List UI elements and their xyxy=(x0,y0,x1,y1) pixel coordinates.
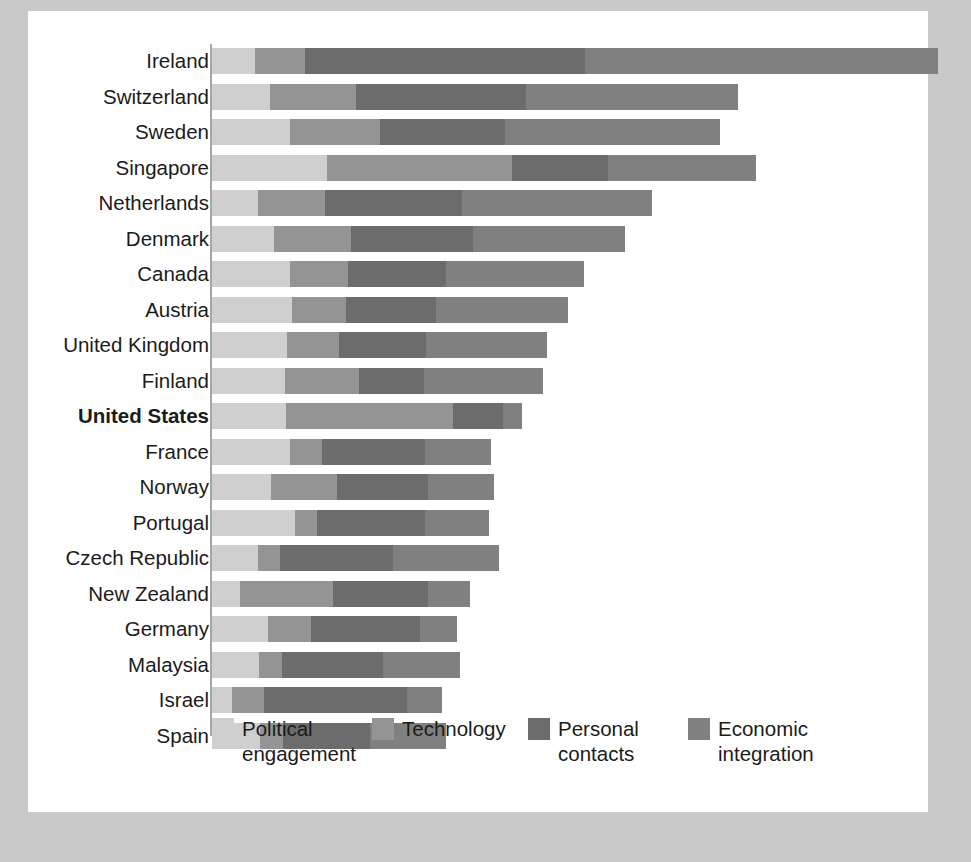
stacked-bar xyxy=(212,190,652,216)
bar-segment-4 xyxy=(425,439,491,465)
stacked-bar xyxy=(212,48,938,74)
bar-segment-4 xyxy=(473,226,625,252)
category-label: Finland xyxy=(0,368,209,394)
legend-label: Technology xyxy=(402,716,506,741)
bar-segment-4 xyxy=(425,510,489,536)
category-label: Austria xyxy=(0,297,209,323)
bar-segment-3 xyxy=(356,84,526,110)
bar-segment-2 xyxy=(292,297,346,323)
category-label: Portugal xyxy=(0,510,209,536)
bar-row: Czech Republic xyxy=(28,545,928,581)
bar-segment-1 xyxy=(212,332,287,358)
bar-segment-2 xyxy=(290,439,322,465)
bar-segment-4 xyxy=(608,155,756,181)
bar-segment-4 xyxy=(526,84,739,110)
bar-segment-3 xyxy=(322,439,426,465)
bar-row: New Zealand xyxy=(28,581,928,617)
bar-segment-2 xyxy=(274,226,351,252)
bar-segment-4 xyxy=(436,297,569,323)
legend-swatch-icon xyxy=(528,718,550,740)
bar-segment-3 xyxy=(264,687,408,713)
stacked-bar xyxy=(212,332,547,358)
bar-segment-4 xyxy=(428,474,493,500)
category-label: Sweden xyxy=(0,119,209,145)
category-label: New Zealand xyxy=(0,581,209,607)
bar-segment-1 xyxy=(212,616,268,642)
bar-segment-4 xyxy=(428,581,469,607)
stacked-bar xyxy=(212,297,568,323)
category-label: United States xyxy=(0,403,209,429)
bar-segment-4 xyxy=(393,545,500,571)
category-label: United Kingdom xyxy=(0,332,209,358)
bar-segment-2 xyxy=(258,545,280,571)
bar-segment-4 xyxy=(420,616,457,642)
stacked-bar xyxy=(212,687,442,713)
bar-segment-3 xyxy=(453,403,503,429)
stacked-bar xyxy=(212,652,460,678)
bar-segment-3 xyxy=(282,652,382,678)
bar-segment-3 xyxy=(325,190,462,216)
bar-segment-3 xyxy=(311,616,419,642)
bar-segment-4 xyxy=(446,261,583,287)
bar-segment-1 xyxy=(212,687,232,713)
category-label: France xyxy=(0,439,209,465)
legend-item: Technology xyxy=(372,716,506,741)
bar-segment-3 xyxy=(346,297,436,323)
bar-row: Austria xyxy=(28,297,928,333)
category-label: Norway xyxy=(0,474,209,500)
legend-item: Political engagement xyxy=(212,716,356,766)
bar-row: Ireland xyxy=(28,48,928,84)
bar-segment-2 xyxy=(255,48,305,74)
bar-segment-1 xyxy=(212,297,292,323)
legend-swatch-icon xyxy=(688,718,710,740)
stacked-bar xyxy=(212,510,489,536)
stacked-bar xyxy=(212,226,625,252)
bar-segment-4 xyxy=(424,368,543,394)
bar-segment-2 xyxy=(295,510,317,536)
bar-segment-2 xyxy=(287,332,339,358)
bar-segment-1 xyxy=(212,545,258,571)
bar-segment-3 xyxy=(280,545,393,571)
bar-row: Singapore xyxy=(28,155,928,191)
legend-label: Personal contacts xyxy=(558,716,639,766)
bar-segment-1 xyxy=(212,190,258,216)
category-label: Switzerland xyxy=(0,84,209,110)
bar-segment-2 xyxy=(258,190,325,216)
category-label: Singapore xyxy=(0,155,209,181)
bar-segment-3 xyxy=(351,226,473,252)
bar-row: Switzerland xyxy=(28,84,928,120)
bar-segment-1 xyxy=(212,581,240,607)
legend-item: Personal contacts xyxy=(528,716,639,766)
bar-row: Canada xyxy=(28,261,928,297)
bar-row: United Kingdom xyxy=(28,332,928,368)
bar-segment-4 xyxy=(407,687,442,713)
bar-segment-1 xyxy=(212,474,271,500)
bar-row: France xyxy=(28,439,928,475)
bar-segment-4 xyxy=(383,652,460,678)
bar-segment-3 xyxy=(339,332,426,358)
bar-row: Netherlands xyxy=(28,190,928,226)
stacked-bar xyxy=(212,261,584,287)
legend-label: Political engagement xyxy=(242,716,356,766)
stacked-bar xyxy=(212,84,738,110)
bar-segment-2 xyxy=(271,474,337,500)
stacked-bar xyxy=(212,474,494,500)
stacked-bar xyxy=(212,581,470,607)
bar-segment-2 xyxy=(290,261,349,287)
chart-page: IrelandSwitzerlandSwedenSingaporeNetherl… xyxy=(0,0,971,862)
legend-item: Economic integration xyxy=(688,716,814,766)
category-label: Netherlands xyxy=(0,190,209,216)
bar-row: Norway xyxy=(28,474,928,510)
bar-segment-1 xyxy=(212,261,290,287)
category-label: Denmark xyxy=(0,226,209,252)
bar-segment-2 xyxy=(232,687,263,713)
legend-swatch-icon xyxy=(212,718,234,740)
legend-swatch-icon xyxy=(372,718,394,740)
bar-segment-1 xyxy=(212,403,286,429)
bar-row: Sweden xyxy=(28,119,928,155)
bar-segment-1 xyxy=(212,439,290,465)
bar-segment-1 xyxy=(212,652,259,678)
bar-row: Portugal xyxy=(28,510,928,546)
chart-card: IrelandSwitzerlandSwedenSingaporeNetherl… xyxy=(28,11,928,812)
bar-row: Denmark xyxy=(28,226,928,262)
